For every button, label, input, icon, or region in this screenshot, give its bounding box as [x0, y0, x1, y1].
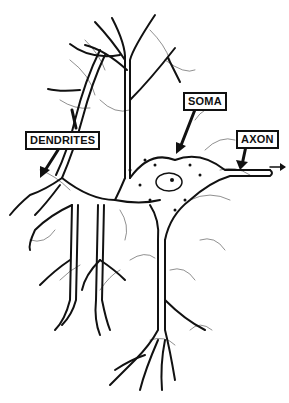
label-soma: SOMA: [183, 92, 227, 111]
lower-dendrite: [110, 205, 205, 390]
label-axon: AXON: [236, 130, 279, 149]
nucleus: [156, 173, 182, 191]
neuron-diagram: [0, 0, 289, 403]
left-dendrites: [10, 178, 125, 335]
upper-dendrite-tree: [48, 15, 180, 178]
label-dendrites: DENDRITES: [25, 131, 100, 150]
fine-fibres: [30, 30, 250, 345]
nucleolus: [170, 178, 174, 182]
signal-direction-arrow: [270, 163, 286, 171]
